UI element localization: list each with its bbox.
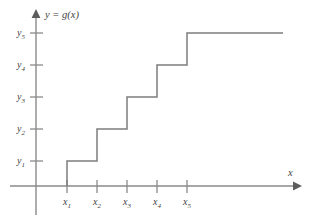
- x-label-sub-3: 3: [127, 202, 131, 210]
- y-axis-arrow-icon: [32, 9, 41, 18]
- x-label-sub-2: 2: [97, 202, 101, 210]
- x-axis-arrow-icon: [293, 182, 302, 191]
- y-label-sub-2: 2: [22, 129, 26, 137]
- x-axis-tick-label-4: x4: [146, 197, 168, 207]
- x-axis-tick-label-5: x5: [176, 197, 198, 207]
- y-axis-tick-label-3: y3: [3, 92, 25, 102]
- step-function-curve: [67, 33, 283, 186]
- y-label-sub-5: 5: [22, 33, 26, 41]
- x-axis-caption: x: [288, 168, 293, 179]
- y-axis-tick-label-1: y1: [3, 156, 25, 166]
- step-function-figure: y = g(x) x y1 y2 y3 y4 y5 x1 x2 x3 x4 x5: [0, 0, 312, 224]
- x-axis-tick-label-3: x3: [116, 197, 138, 207]
- x-label-sub-5: 5: [187, 202, 191, 210]
- y-label-sub-1: 1: [22, 161, 26, 169]
- y-axis-caption: y = g(x): [45, 10, 79, 21]
- y-label-sub-3: 3: [22, 97, 26, 105]
- y-axis-tick-label-4: y4: [3, 60, 25, 70]
- x-axis-tick-label-1: x1: [56, 197, 78, 207]
- x-axis-tick-label-2: x2: [86, 197, 108, 207]
- x-label-sub-4: 4: [157, 202, 161, 210]
- y-label-sub-4: 4: [22, 65, 26, 73]
- x-label-sub-1: 1: [67, 202, 71, 210]
- plot-canvas: [0, 0, 312, 224]
- y-axis-tick-label-5: y5: [3, 28, 25, 38]
- y-axis-tick-label-2: y2: [3, 124, 25, 134]
